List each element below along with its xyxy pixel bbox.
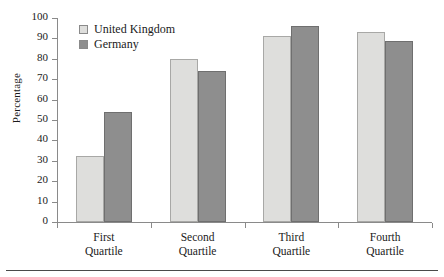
bar-germany[interactable] xyxy=(104,112,132,222)
bar-chart-figure: Percentage 1009080706050403020100 FirstQ… xyxy=(0,0,444,277)
legend-label: Germany xyxy=(94,37,139,52)
x-axis-tick xyxy=(338,223,339,228)
x-axis-tick xyxy=(57,223,58,228)
y-axis-tick-label: 90 xyxy=(37,30,48,42)
legend-item[interactable]: United Kingdom xyxy=(79,22,175,37)
x-axis-group-label: SecondQuartile xyxy=(179,230,217,258)
y-axis-tick: 40 xyxy=(52,140,57,141)
x-axis-group-label-line: Quartile xyxy=(273,244,311,258)
bar-uk[interactable] xyxy=(76,156,104,222)
y-axis-tick-label: 0 xyxy=(43,214,49,226)
x-axis-tick xyxy=(151,223,152,228)
y-axis-tick-label: 60 xyxy=(37,92,48,104)
y-axis-tick-label: 50 xyxy=(37,112,48,124)
bar-uk[interactable] xyxy=(170,59,198,222)
bar-uk[interactable] xyxy=(263,36,291,222)
y-axis-tick: 100 xyxy=(52,18,57,19)
legend: United KingdomGermany xyxy=(79,22,175,52)
bar-germany[interactable] xyxy=(385,41,413,222)
x-axis-group-label: FirstQuartile xyxy=(85,230,123,258)
x-axis-group-label: FourthQuartile xyxy=(366,230,404,258)
x-axis-group-label-line: Quartile xyxy=(366,244,404,258)
y-axis-tick-label: 80 xyxy=(37,51,48,63)
y-axis-tick: 90 xyxy=(52,38,57,39)
x-axis-group-label: ThirdQuartile xyxy=(273,230,311,258)
y-axis-tick: 60 xyxy=(52,100,57,101)
bar-germany[interactable] xyxy=(291,26,319,222)
y-axis-line xyxy=(57,18,58,223)
y-axis-tick: 10 xyxy=(52,202,57,203)
x-axis-tick xyxy=(245,223,246,228)
y-axis-title: Percentage xyxy=(10,38,22,158)
y-axis-tick-label: 70 xyxy=(37,71,48,83)
x-axis-group-label-line: Third xyxy=(273,230,311,244)
y-axis-tick-label: 40 xyxy=(37,132,48,144)
legend-swatch-icon xyxy=(79,25,88,34)
footer-divider xyxy=(6,270,438,271)
y-axis-tick-label: 20 xyxy=(37,173,48,185)
legend-label: United Kingdom xyxy=(94,22,175,37)
y-axis-tick-label: 100 xyxy=(32,10,49,22)
y-axis-tick: 80 xyxy=(52,59,57,60)
y-axis-tick: 50 xyxy=(52,120,57,121)
x-axis-tick xyxy=(432,223,433,228)
y-axis-tick-label: 10 xyxy=(37,194,48,206)
x-axis-group-label-line: Fourth xyxy=(366,230,404,244)
legend-swatch-icon xyxy=(79,40,88,49)
bar-uk[interactable] xyxy=(357,32,385,222)
x-axis-group-label-line: First xyxy=(85,230,123,244)
y-axis-tick: 70 xyxy=(52,79,57,80)
y-axis-tick-label: 30 xyxy=(37,153,48,165)
x-axis-group-label-line: Quartile xyxy=(85,244,123,258)
legend-item[interactable]: Germany xyxy=(79,37,175,52)
bar-germany[interactable] xyxy=(198,71,226,222)
x-axis-group-label-line: Second xyxy=(179,230,217,244)
y-axis-tick: 20 xyxy=(52,181,57,182)
y-axis-tick: 30 xyxy=(52,161,57,162)
x-axis-group-label-line: Quartile xyxy=(179,244,217,258)
